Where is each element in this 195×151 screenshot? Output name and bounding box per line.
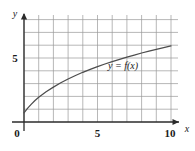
y-tick-label-5: 5	[12, 52, 18, 64]
y-axis-label: y	[12, 8, 18, 19]
figure-container: y x 0 5 10 5 y = f(x)	[0, 0, 195, 151]
x-tick-label-5: 5	[95, 127, 101, 139]
x-axis-label: x	[184, 123, 190, 134]
x-tick-label-0: 0	[14, 127, 20, 139]
x-tick-label-10: 10	[165, 127, 177, 139]
graph-plot: y x 0 5 10 5 y = f(x)	[0, 0, 195, 151]
curve-label: y = f(x)	[107, 60, 139, 72]
